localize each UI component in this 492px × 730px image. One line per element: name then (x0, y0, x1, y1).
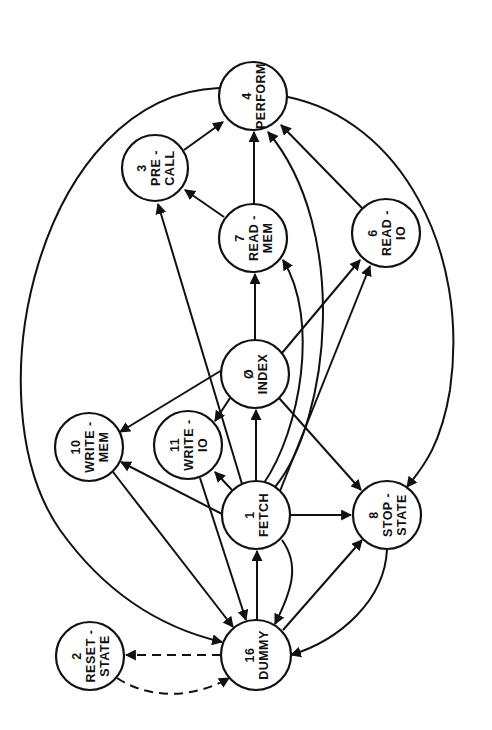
node-number: 11 (168, 438, 182, 452)
edge-fetch-dummy (275, 540, 292, 624)
node-number: Ø (242, 369, 256, 379)
node-number: 1 (243, 511, 257, 518)
node-number: 7 (233, 234, 247, 241)
node-label: READ - (247, 215, 261, 261)
node-label: DUMMY (257, 630, 271, 680)
node-number: 3 (135, 164, 149, 171)
edge-readio-perform (281, 125, 362, 208)
edge-perform-stopstate (288, 97, 453, 487)
edge-writemem-dummy (113, 472, 233, 627)
node-number: 4 (240, 92, 254, 99)
node-label: CALL (163, 150, 177, 185)
edge-resetstate-dummy (117, 678, 229, 694)
node-perform: 4PERFORM (219, 62, 287, 130)
edge-readmem-precall (185, 190, 224, 217)
node-number: 8 (367, 511, 381, 518)
node-write-io: 11WRITE -IO (154, 411, 222, 479)
node-label: STATE (395, 494, 409, 536)
edge-precall-perform (184, 122, 223, 150)
node-stop-state: 8STOP -STATE (353, 481, 421, 549)
node-reset-state: 2RESET -STATE (56, 622, 124, 690)
edge-fetch-writeio (215, 472, 232, 490)
node-label: STOP - (381, 493, 395, 537)
node-number: 10 (69, 440, 83, 455)
node-label: MEM (261, 223, 275, 254)
node-label: STATE (98, 635, 112, 677)
node-label: FETCH (257, 493, 271, 537)
node-index: ØINDEX (221, 340, 289, 408)
node-label: PERFORM (254, 63, 268, 129)
node-label: READ - (380, 210, 394, 256)
node-number: 2 (70, 652, 84, 659)
node-label: RESET - (84, 630, 98, 683)
state-diagram: 4PERFORM3PRE -CALL7READ -MEM6READ -IOØIN… (0, 0, 492, 730)
node-pre-call: 3PRE -CALL (122, 135, 188, 201)
node-dummy: 16DUMMY (221, 620, 291, 690)
node-write-mem: 10WRITE -MEM (55, 413, 123, 481)
node-number: 6 (366, 229, 380, 236)
node-label: IO (196, 438, 210, 452)
node-label: PRE - (149, 150, 163, 186)
edge-fetch-perform (268, 132, 323, 487)
node-fetch: 1FETCH (222, 481, 290, 549)
node-read-mem: 7READ -MEM (219, 204, 287, 272)
node-read-io: 6READ -IO (352, 199, 420, 267)
node-label: IO (394, 226, 408, 240)
node-number: 16 (243, 648, 257, 663)
edge-dummy-stopstate (283, 540, 362, 630)
node-label: INDEX (256, 353, 270, 394)
node-label: MEM (97, 432, 111, 463)
node-label: WRITE - (182, 419, 196, 470)
edge-index-stopstate (279, 398, 361, 490)
node-label: WRITE - (83, 421, 97, 472)
edge-fetch-readio (280, 266, 370, 491)
